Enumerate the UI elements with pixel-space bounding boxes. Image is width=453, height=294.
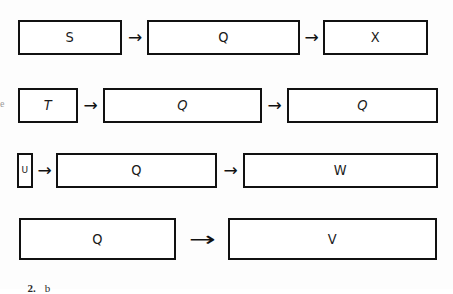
flow-arrow-icon: → bbox=[219, 162, 242, 178]
arrow-glyph: → bbox=[189, 229, 216, 249]
state-box-label: Q bbox=[218, 31, 229, 45]
state-box-label: V bbox=[328, 232, 337, 246]
state-box: T bbox=[18, 88, 78, 123]
state-box-label: S bbox=[66, 31, 75, 45]
figure-caption: 2.b bbox=[22, 270, 50, 294]
arrow-glyph: → bbox=[128, 29, 142, 46]
state-box-label: X bbox=[371, 31, 380, 45]
edge-margin-mark: e bbox=[0, 98, 4, 109]
state-box: S bbox=[18, 20, 122, 55]
caption-letter: b bbox=[45, 282, 51, 294]
state-box: W bbox=[243, 153, 438, 188]
state-box: V bbox=[228, 218, 437, 260]
state-box-label: U bbox=[21, 166, 28, 175]
state-box: X bbox=[323, 20, 428, 55]
state-box: Q bbox=[287, 88, 438, 123]
arrow-glyph: → bbox=[223, 162, 237, 179]
caption-number: 2. bbox=[28, 282, 36, 294]
state-box: Q bbox=[56, 153, 217, 188]
flow-arrow-icon: → bbox=[301, 29, 322, 45]
state-box-label: T bbox=[44, 99, 52, 113]
arrow-glyph: → bbox=[83, 97, 97, 114]
state-box: U bbox=[17, 153, 33, 188]
flow-arrow-icon: → bbox=[79, 97, 102, 113]
arrow-glyph: → bbox=[304, 29, 318, 46]
arrow-glyph: → bbox=[37, 162, 51, 179]
state-box-label: Q bbox=[131, 164, 142, 178]
state-box-label: Q bbox=[357, 99, 368, 113]
state-box-label: Q bbox=[177, 99, 188, 113]
state-box: Q bbox=[147, 20, 300, 55]
flow-arrow-icon: → bbox=[184, 230, 220, 248]
state-box: Q bbox=[19, 218, 176, 260]
flow-arrow-icon: → bbox=[34, 162, 55, 178]
arrow-glyph: → bbox=[267, 97, 281, 114]
state-box-label: W bbox=[334, 164, 347, 178]
flow-arrow-icon: → bbox=[124, 29, 146, 45]
flow-arrow-icon: → bbox=[263, 97, 286, 113]
state-box: Q bbox=[103, 88, 262, 123]
state-box-label: Q bbox=[92, 232, 103, 246]
